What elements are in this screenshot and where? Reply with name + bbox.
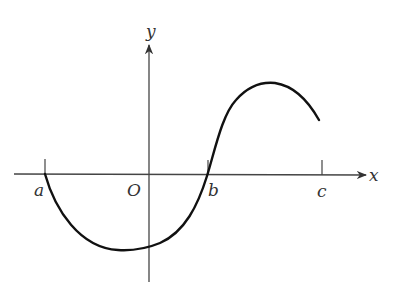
function-graph: y x O a b c	[0, 0, 396, 294]
x-axis-label: x	[369, 165, 379, 185]
point-c-label: c	[317, 181, 327, 201]
origin-label: O	[127, 180, 141, 200]
x-axis	[14, 174, 366, 175]
point-b-label: b	[208, 180, 219, 200]
point-a-label: a	[34, 180, 44, 200]
y-axis-label: y	[145, 21, 156, 41]
function-curve	[45, 83, 319, 250]
